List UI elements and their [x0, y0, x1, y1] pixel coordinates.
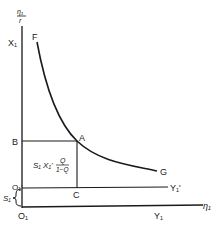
- bottom-axis-label: Y₁: [154, 211, 163, 221]
- curve-end-label: G: [160, 167, 167, 177]
- point-b-label: B: [12, 137, 18, 147]
- shifted-axis-label: Y₁': [170, 183, 181, 193]
- point-a-label: A: [79, 133, 85, 143]
- shifted-axis: [22, 187, 168, 188]
- point-c-label: C: [73, 190, 80, 200]
- brace-label: S₁: [3, 194, 11, 203]
- y-axis-label: X₁: [8, 38, 17, 48]
- region-label-numerator: Q: [60, 157, 66, 165]
- horizontal-axis: [22, 205, 203, 207]
- economics-diagram: η₁ r X₁ η₁ Y₁ O₁ Y₁' O₁' S₁ F G A B C S₁…: [0, 0, 218, 232]
- origin-label: O₁: [18, 211, 28, 221]
- region-label-denominator: 1−Q: [56, 166, 68, 174]
- x-axis-label: η₁: [203, 201, 211, 211]
- curve-fg: [37, 42, 157, 171]
- curve-start-label: F: [32, 32, 38, 42]
- y-axis-top-label-numerator: η₁: [17, 8, 24, 16]
- y-axis-top-label-denominator: r: [19, 17, 22, 24]
- region-label-prefix: S₁ X₁': [33, 161, 53, 170]
